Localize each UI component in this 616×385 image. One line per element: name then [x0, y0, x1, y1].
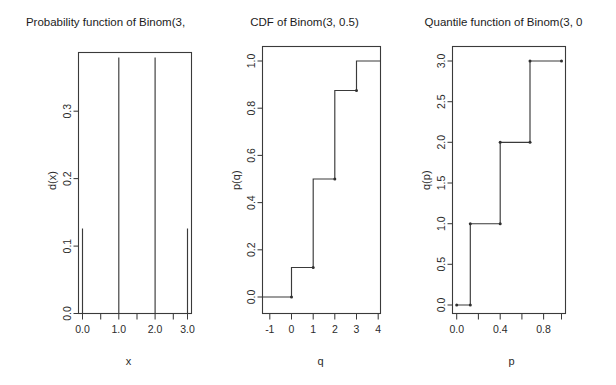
- y-tick-label: 0.6: [245, 148, 257, 163]
- y-tick-label: 0.4: [245, 195, 257, 210]
- y-axis-label-quantile-function: q(p): [420, 170, 432, 190]
- x-tick-label: 0.0: [75, 323, 90, 335]
- plot-panel-probability-function: Probability function of Binom(3, 0.0 0.1…: [0, 0, 205, 385]
- y-tick-label: 1.5: [435, 176, 447, 191]
- x-axis-ticks: [270, 314, 378, 320]
- plot-frame: [453, 47, 566, 314]
- y-tick-label: 0.2: [245, 242, 257, 257]
- step-dot: [529, 60, 532, 63]
- x-axis-label-cdf: q: [202, 355, 407, 367]
- step-dot: [469, 304, 472, 307]
- y-axis-ticks: [74, 111, 79, 313]
- y-axis-label-probability-function: d(x): [46, 171, 58, 190]
- plot-frame: [263, 47, 381, 314]
- y-tick-label: 1.0: [435, 216, 447, 231]
- y-axis-label-cdf: p(q): [230, 170, 242, 190]
- quantile-step-curve: [457, 61, 562, 305]
- y-tick-label: 0.1: [61, 239, 73, 254]
- y-tick-label: 0.0: [61, 306, 73, 321]
- step-dot: [499, 141, 502, 144]
- y-tick-label: 0.0: [245, 290, 257, 305]
- plot-panel-quantile-function: Quantile function of Binom(3, 0 0.0 0.5 …: [400, 0, 605, 385]
- plot-canvas-quantile-function: 0.0 0.5 1.0 1.5 2.0 2.5 3.0 0.0 0.4 0.8: [400, 0, 616, 385]
- x-tick-label: 4: [375, 323, 381, 335]
- x-axis-label-quantile-function: p: [400, 355, 605, 367]
- x-axis-label-probability-function: x: [0, 355, 205, 367]
- x-axis-ticks: [457, 314, 562, 320]
- y-tick-label: 2.0: [435, 135, 447, 150]
- y-axis-tick-labels: 0.0 0.2 0.4 0.6 0.8 1.0: [245, 54, 257, 305]
- y-tick-label: 3.0: [435, 54, 447, 69]
- plot-canvas-probability-function: 0.0 0.1 0.2 0.3 0.0 1.0 2.0 3.0: [0, 0, 205, 385]
- y-axis-tick-labels: 0.0 0.1 0.2 0.3: [61, 104, 73, 321]
- x-tick-label: 0.4: [493, 323, 508, 335]
- step-dot: [499, 222, 502, 225]
- y-tick-label: 0.5: [435, 257, 447, 272]
- y-tick-label: 0.0: [435, 298, 447, 313]
- y-axis-ticks: [258, 61, 263, 297]
- y-tick-label: 0.8: [245, 101, 257, 116]
- plot-canvas-cdf: 0.0 0.2 0.4 0.6 0.8 1.0 -1 0 1 2 3 4: [202, 0, 407, 385]
- x-axis-tick-labels: 0.0 1.0 2.0 3.0: [75, 323, 195, 335]
- step-dot: [455, 304, 458, 307]
- y-tick-label: 0.3: [61, 104, 73, 119]
- x-tick-label: 0: [289, 323, 295, 335]
- x-tick-label: 0.8: [536, 323, 551, 335]
- y-tick-label: 0.2: [61, 171, 73, 186]
- x-tick-label: -1: [265, 323, 274, 335]
- x-tick-label: 3.0: [180, 323, 195, 335]
- plot-panel-cdf: CDF of Binom(3, 0.5) 0.0 0.2 0.4 0.6 0.8…: [202, 0, 407, 385]
- x-tick-label: 2.0: [148, 323, 163, 335]
- step-dot: [333, 178, 336, 181]
- x-tick-label: 3: [354, 323, 360, 335]
- quantile-step-endpoint-dots: [455, 60, 563, 307]
- x-tick-label: 0.0: [449, 323, 464, 335]
- step-dot: [355, 89, 358, 92]
- y-tick-label: 1.0: [245, 54, 257, 69]
- x-tick-label: 1.0: [111, 323, 126, 335]
- step-dot: [560, 60, 563, 63]
- step-dot: [312, 266, 315, 269]
- plot-frame: [79, 53, 192, 314]
- pmf-spikes: [83, 58, 188, 314]
- step-dot: [290, 296, 293, 299]
- y-axis-tick-labels: 0.0 0.5 1.0 1.5 2.0 2.5 3.0: [435, 54, 447, 313]
- step-dot: [469, 222, 472, 225]
- y-tick-label: 2.5: [435, 94, 447, 109]
- x-tick-label: 2: [332, 323, 338, 335]
- cdf-step-curve: [263, 61, 381, 297]
- x-axis-ticks: [83, 314, 188, 320]
- step-dot: [529, 141, 532, 144]
- y-axis-ticks: [448, 61, 453, 305]
- x-axis-tick-labels: 0.0 0.4 0.8: [449, 323, 551, 335]
- x-tick-label: 1: [310, 323, 316, 335]
- x-axis-tick-labels: -1 0 1 2 3 4: [265, 323, 381, 335]
